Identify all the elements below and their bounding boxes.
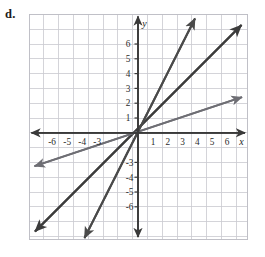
- y-tick-label-neg5: -5: [126, 187, 134, 197]
- y-tick-label-3: 3: [126, 84, 131, 94]
- y-tick-label-neg3: -3: [126, 158, 134, 168]
- y-tick-label-6: 6: [126, 39, 131, 49]
- problem-label: d.: [5, 7, 15, 22]
- y-tick-label-2: 2: [126, 98, 131, 108]
- y-tick-label-5: 5: [126, 54, 131, 64]
- x-tick-label-4: 4: [195, 137, 200, 147]
- x-tick-label-6: 6: [225, 137, 230, 147]
- x-tick-label-1: 1: [151, 137, 156, 147]
- worksheet-page: d.: [0, 0, 265, 257]
- graph-svg: 6 5 4 3 2 1 -3 -4 -5 -6 -6 -5 -4 -3 1 2 …: [29, 14, 248, 240]
- coordinate-graph: 6 5 4 3 2 1 -3 -4 -5 -6 -6 -5 -4 -3 1 2 …: [29, 14, 248, 240]
- x-tick-label-2: 2: [165, 137, 170, 147]
- x-tick-label-neg3: -3: [93, 137, 101, 147]
- x-tick-label-neg5: -5: [63, 137, 71, 147]
- y-tick-label-neg6: -6: [126, 202, 134, 212]
- x-tick-label-neg6: -6: [48, 137, 56, 147]
- x-tick-label-neg4: -4: [78, 137, 86, 147]
- x-tick-label-3: 3: [180, 137, 185, 147]
- y-tick-label-neg4: -4: [126, 173, 134, 183]
- y-tick-label-4: 4: [126, 69, 131, 79]
- x-axis-label: x: [238, 136, 244, 147]
- x-tick-label-5: 5: [210, 137, 215, 147]
- y-axis-label: y: [141, 18, 147, 29]
- y-tick-label-1: 1: [126, 113, 131, 123]
